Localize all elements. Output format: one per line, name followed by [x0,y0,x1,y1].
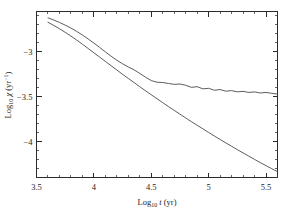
x-tick-label: 5.5 [261,182,272,192]
line-chart: 3.544.555.5−3−3.5−4 Log10 t (yr) Log10 χ… [0,0,291,211]
y-tick-label: −4 [23,137,33,147]
y-tick-label: −3 [23,47,32,57]
y-tick-label: −3.5 [17,92,32,102]
svg-text:Log10 t (yr): Log10 t (yr) [137,197,176,208]
y-title-var: χ [3,91,13,99]
y-title-unit-close: ) [3,71,13,74]
y-title-unit: (yr [3,81,13,91]
x-axis-title: Log10 t (yr) [137,197,176,208]
x-tick-label: 4.5 [146,182,157,192]
x-tick-label: 5 [206,182,210,192]
x-title-unit: (yr) [164,197,177,207]
x-title-var: t [157,197,164,207]
x-tick-label: 3.5 [31,182,42,192]
chart-background [0,0,291,211]
x-tick-label: 4 [92,182,97,192]
x-title-prefix: Log [137,197,151,207]
chart-screenshot: 3.544.555.5−3−3.5−4 Log10 t (yr) Log10 χ… [0,0,291,211]
y-title-prefix: Log [3,104,13,118]
